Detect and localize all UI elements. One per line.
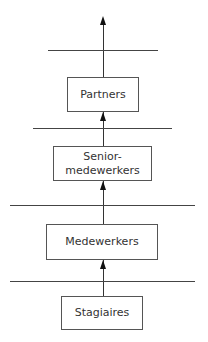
level-line-2 [33, 128, 172, 129]
arrow-up-icon [100, 16, 106, 25]
level-box-stagiaires: Stagiaires [61, 296, 143, 330]
level-label: Stagiaires [75, 306, 130, 320]
connector-top [103, 20, 104, 77]
level-line-1 [48, 50, 158, 51]
level-box-senior-medewerkers: Senior- medewerkers [53, 146, 152, 181]
level-line-4 [10, 281, 195, 282]
arrow-up-icon [100, 181, 106, 190]
arrow-up-icon [100, 260, 106, 269]
level-label: Partners [80, 88, 126, 102]
level-label: Medewerkers [65, 235, 138, 249]
level-box-medewerkers: Medewerkers [46, 224, 158, 260]
level-label-line2: medewerkers [65, 164, 140, 178]
level-label-line1: Senior- [83, 150, 121, 164]
level-box-partners: Partners [67, 77, 139, 112]
arrow-up-icon [100, 112, 106, 121]
level-line-3 [10, 205, 195, 206]
